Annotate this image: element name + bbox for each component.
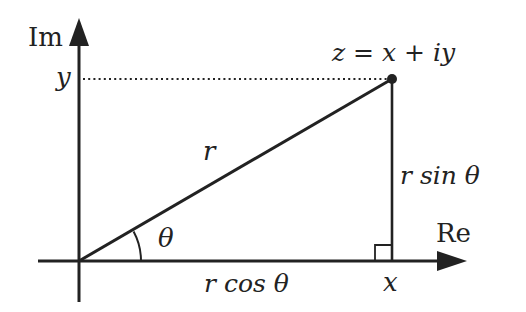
imaginary-axis-arrowhead (69, 18, 89, 46)
right-angle-marker (375, 245, 392, 261)
real-axis-label: Re (436, 218, 471, 248)
imaginary-axis-label: Im (28, 22, 63, 52)
adjacent-side-label: r cos θ (204, 269, 289, 298)
angle-label: θ (158, 223, 174, 253)
complex-plane-diagram: Im Re y z = x + iy r r sin θ θ r cos θ x (0, 0, 526, 312)
x-label: x (383, 267, 398, 297)
opposite-side-label: r sin θ (400, 161, 480, 190)
angle-arc (134, 232, 141, 262)
z-label: z = x + iy (331, 38, 456, 67)
hypotenuse-line (79, 79, 392, 261)
y-label: y (55, 62, 71, 92)
real-axis-arrowhead (437, 251, 467, 271)
point-z (387, 74, 397, 84)
hypotenuse-label: r (203, 136, 217, 166)
